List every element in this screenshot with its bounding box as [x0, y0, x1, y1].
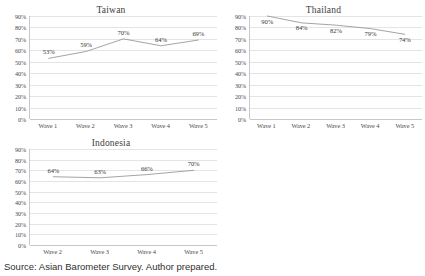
y-axis-tick: 80% [235, 24, 246, 31]
y-axis-tick: 70% [15, 167, 26, 174]
x-axis-tick: Wave 2 [76, 122, 95, 129]
x-axis-tick: Wave 3 [90, 248, 109, 255]
y-axis-tick: 70% [15, 35, 26, 42]
plot-wrap-taiwan: 90%80%70%60%50%40%30%20%10%0%53%59%70%64… [4, 16, 218, 119]
chart-panel-taiwan: Taiwan 90%80%70%60%50%40%30%20%10%0%53%5… [4, 4, 218, 136]
x-axis-line [30, 245, 217, 246]
x-axis-tick: Wave 3 [114, 122, 133, 129]
x-axis-line [30, 119, 217, 120]
y-axis-tick: 0% [238, 116, 246, 123]
y-axis-tick: 40% [15, 70, 26, 77]
y-axis-tick: 60% [15, 47, 26, 54]
data-point-label: 69% [192, 30, 204, 37]
y-axis-tick: 10% [15, 231, 26, 238]
data-series-line [49, 39, 199, 58]
data-point-label: 84% [296, 24, 308, 31]
y-axis-tick: 30% [15, 210, 26, 217]
x-axis-tick: Wave 1 [257, 122, 276, 129]
data-point-label: 70% [188, 160, 200, 167]
y-axis-tick: 30% [15, 81, 26, 88]
y-axis-tick: 80% [15, 24, 26, 31]
data-point-label: 74% [399, 36, 411, 43]
plot-wrap-thailand: 90%80%70%60%50%40%30%20%10%0%90%84%82%79… [224, 16, 423, 119]
chart-panel-thailand: Thailand 90%80%70%60%50%40%30%20%10%0%90… [224, 4, 423, 136]
data-point-label: 59% [80, 41, 92, 48]
y-axis-tick: 0% [18, 242, 26, 249]
chart-title-thailand: Thailand [224, 4, 423, 16]
data-point-label: 66% [141, 165, 153, 172]
x-axis-tick: Wave 1 [39, 122, 58, 129]
data-point-label: 82% [330, 27, 342, 34]
data-point-label: 64% [47, 167, 59, 174]
x-axis-tick: Wave 4 [151, 122, 170, 129]
y-axis-tick: 50% [15, 188, 26, 195]
x-axis-tick: Wave 2 [292, 122, 311, 129]
x-axis-tick: Wave 5 [189, 122, 208, 129]
y-axis-tick: 40% [235, 70, 246, 77]
y-axis-tick: 80% [15, 156, 26, 163]
data-point-label: 79% [364, 30, 376, 37]
data-series-line [53, 170, 193, 177]
chart-panel-indonesia: Indonesia 90%80%70%60%50%40%30%20%10%0%6… [4, 137, 218, 259]
y-axis-tick: 90% [235, 13, 246, 20]
x-axis-tick: Wave 2 [43, 248, 62, 255]
y-axis-tick: 30% [235, 81, 246, 88]
x-axis-tick: Wave 4 [137, 248, 156, 255]
plot-area: 53%59%70%64%69% [29, 16, 217, 119]
y-axis-tick: 20% [235, 93, 246, 100]
y-axis-tick: 0% [18, 116, 26, 123]
y-axis-tick: 50% [15, 58, 26, 65]
y-axis-tick: 70% [235, 35, 246, 42]
y-axis-tick: 20% [15, 93, 26, 100]
data-point-label: 53% [43, 48, 55, 55]
plot-area: 90%84%82%79%74% [249, 16, 422, 119]
chart-title-taiwan: Taiwan [4, 4, 218, 16]
source-note: Source: Asian Barometer Survey. Author p… [4, 261, 217, 272]
x-axis-tick: Wave 5 [184, 248, 203, 255]
x-axis-tick: Wave 5 [395, 122, 414, 129]
plot-area: 64%63%66%70% [29, 149, 217, 245]
data-point-label: 70% [118, 29, 130, 36]
y-axis-tick: 60% [235, 47, 246, 54]
data-point-label: 64% [155, 36, 167, 43]
y-axis: 90%80%70%60%50%40%30%20%10%0% [4, 149, 28, 245]
y-axis: 90%80%70%60%50%40%30%20%10%0% [224, 16, 248, 119]
y-axis: 90%80%70%60%50%40%30%20%10%0% [4, 16, 28, 119]
x-axis-line [250, 119, 422, 120]
x-axis-tick: Wave 4 [361, 122, 380, 129]
y-axis-tick: 10% [15, 104, 26, 111]
y-axis-tick: 90% [15, 146, 26, 153]
plot-wrap-indonesia: 90%80%70%60%50%40%30%20%10%0%64%63%66%70… [4, 149, 218, 245]
data-point-label: 90% [261, 18, 273, 25]
y-axis-tick: 20% [15, 220, 26, 227]
y-axis-tick: 90% [15, 13, 26, 20]
y-axis-tick: 10% [235, 104, 246, 111]
chart-title-indonesia: Indonesia [4, 137, 218, 149]
y-axis-tick: 60% [15, 178, 26, 185]
x-axis-tick: Wave 3 [326, 122, 345, 129]
data-point-label: 63% [94, 168, 106, 175]
y-axis-tick: 40% [15, 199, 26, 206]
y-axis-tick: 50% [235, 58, 246, 65]
